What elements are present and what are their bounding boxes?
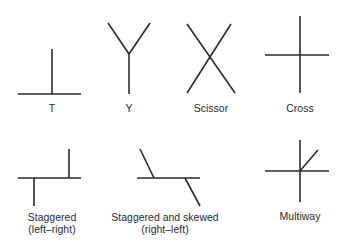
staggered-label-line2: (left–right)	[28, 223, 75, 235]
multiway-intersection: Multiway	[265, 140, 329, 222]
y-intersection: Y	[108, 23, 150, 114]
intersection-diagram: T Y Scissor Cross Staggered (left–right)…	[0, 0, 346, 244]
cross-label: Cross	[286, 102, 313, 114]
staggered-skewed-label-line1: Staggered and skewed	[111, 211, 219, 223]
staggered-label-line1: Staggered	[28, 211, 77, 223]
multiway-diagonal-road	[300, 150, 318, 171]
cross-intersection: Cross	[265, 16, 329, 114]
y-right-branch	[129, 23, 150, 54]
staggered-skewed-intersection: Staggered and skewed (right–left)	[111, 149, 219, 235]
scissor-intersection: Scissor	[187, 24, 235, 114]
t-intersection: T	[18, 49, 81, 114]
multiway-label: Multiway	[280, 210, 322, 222]
scissor-label: Scissor	[194, 102, 229, 114]
t-label: T	[49, 102, 56, 114]
staggered-intersection: Staggered (left–right)	[18, 149, 81, 235]
staggered-skewed-upper-road	[140, 149, 154, 178]
y-label: Y	[125, 102, 132, 114]
y-left-branch	[108, 23, 129, 54]
staggered-skewed-lower-road	[185, 178, 200, 206]
staggered-skewed-label-line2: (right–left)	[141, 223, 188, 235]
